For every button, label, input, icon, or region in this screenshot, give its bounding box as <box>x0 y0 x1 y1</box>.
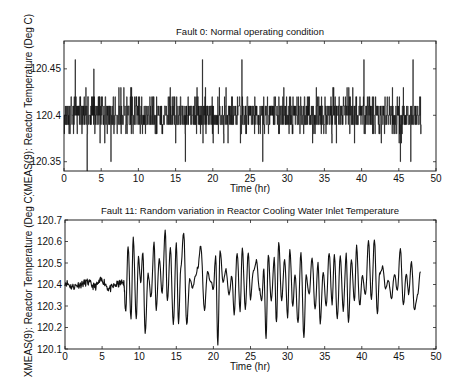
x-axis-label: Time (hr) <box>230 361 270 372</box>
x-tick-label: 10 <box>134 351 146 362</box>
chart-title: Fault 0: Normal operating condition <box>176 26 324 37</box>
x-tick-label: 40 <box>356 173 368 184</box>
y-tick-label: 120.6 <box>37 236 62 247</box>
x-tick-label: 45 <box>393 351 405 362</box>
x-tick-label: 30 <box>282 173 294 184</box>
data-line <box>64 60 421 171</box>
x-tick-label: 35 <box>319 173 331 184</box>
x-tick-label: 15 <box>171 351 183 362</box>
y-tick-label: 120.5 <box>37 258 62 269</box>
y-tick-label: 120.35 <box>30 156 61 167</box>
chart-title: Fault 11: Random variation in Reactor Co… <box>101 205 399 216</box>
chart-fault-11: Fault 11: Random variation in Reactor Co… <box>0 195 463 389</box>
x-tick-label: 50 <box>430 351 442 362</box>
y-tick-label: 120.1 <box>37 344 62 355</box>
y-tick-label: 120.2 <box>37 322 62 333</box>
y-axis-label: XMEAS(9): Reactor Temperature (Deg C) <box>23 195 34 377</box>
chart-fault-0-svg: Fault 0: Normal operating condition 0510… <box>0 0 463 195</box>
chart-fault-0: Fault 0: Normal operating condition 0510… <box>0 0 463 195</box>
y-tick-label: 120.45 <box>30 63 61 74</box>
x-tick-label: 10 <box>133 173 145 184</box>
y-tick-label: 120.4 <box>36 110 61 121</box>
x-tick-label: 35 <box>319 351 331 362</box>
data-line <box>65 230 420 345</box>
x-tick-label: 20 <box>208 351 220 362</box>
plot-area: 05101520253035404550120.35120.4120.45 <box>30 41 442 184</box>
x-tick-label: 15 <box>170 173 182 184</box>
x-tick-label: 45 <box>393 173 405 184</box>
x-tick-label: 40 <box>356 351 368 362</box>
x-tick-label: 20 <box>207 173 219 184</box>
y-tick-label: 120.3 <box>37 301 62 312</box>
y-axis-label: XMEAS(9): Reactor Temperature (Deg C) <box>23 14 34 195</box>
x-tick-label: 5 <box>98 173 104 184</box>
plot-area: 05101520253035404550120.1120.2120.3120.4… <box>37 215 442 363</box>
x-tick-label: 50 <box>430 173 442 184</box>
x-axis-label: Time (hr) <box>230 183 270 194</box>
y-tick-label: 120.4 <box>37 279 62 290</box>
x-tick-label: 0 <box>61 173 67 184</box>
chart-fault-11-svg: Fault 11: Random variation in Reactor Co… <box>0 195 463 389</box>
x-tick-label: 30 <box>282 351 294 362</box>
x-tick-label: 0 <box>62 351 68 362</box>
x-tick-label: 5 <box>99 351 105 362</box>
y-tick-label: 120.7 <box>37 215 62 226</box>
